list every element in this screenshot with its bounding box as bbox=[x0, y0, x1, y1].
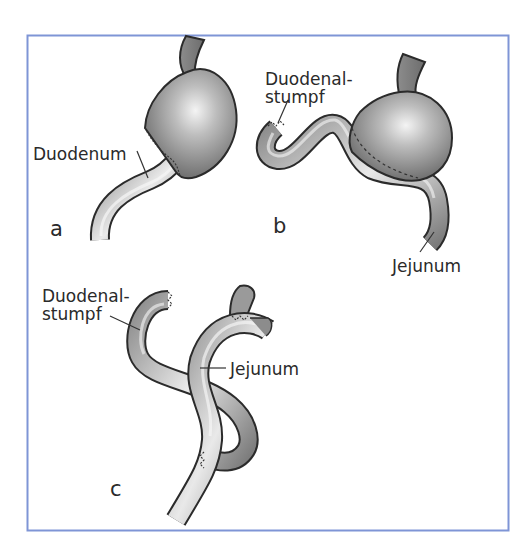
panel-letter-b: b bbox=[273, 214, 286, 238]
label-jejunum: Jejunum bbox=[229, 359, 299, 379]
stomach bbox=[145, 69, 237, 178]
panel-b: Duodenal- stumpf Jejunum b bbox=[265, 54, 461, 276]
label-duodenal-stump-line1: Duodenal- bbox=[42, 286, 130, 306]
label-duodenal-stump-line2: stumpf bbox=[265, 87, 326, 107]
label-duodenum: Duodenum bbox=[33, 144, 127, 164]
stump-suture bbox=[168, 292, 172, 308]
label-jejunum: Jejunum bbox=[391, 256, 461, 276]
panel-a: Duodenum a bbox=[33, 36, 237, 241]
panel-letter-a: a bbox=[50, 217, 63, 241]
label-duodenal-stump-line2: stumpf bbox=[42, 304, 103, 324]
panel-c: Duodenal- stumpf Jejunum c bbox=[42, 286, 299, 520]
panel-letter-c: c bbox=[110, 477, 122, 501]
surgical-reconstruction-diagram: Duodenum a Duodenal- stumpf Jejunum b bbox=[0, 0, 530, 557]
label-duodenal-stump-line1: Duodenal- bbox=[265, 69, 353, 89]
